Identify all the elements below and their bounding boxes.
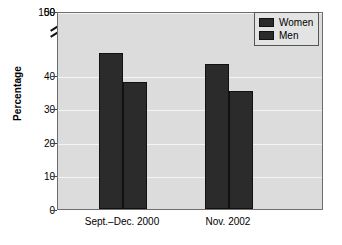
gridline	[58, 110, 322, 111]
legend-label-men: Men	[279, 31, 298, 41]
bar-men-2	[229, 91, 253, 209]
legend-label-women: Women	[279, 18, 313, 28]
legend-swatch-men-icon	[259, 31, 274, 40]
bar-women-1	[99, 53, 123, 209]
gridline	[58, 144, 322, 145]
bar-women-2	[205, 64, 229, 209]
x-tick-label: Sept.–Dec. 2000	[85, 216, 160, 227]
y-tick-label: 0	[15, 205, 55, 216]
y-tick-label: 30	[15, 104, 55, 115]
y-tick-label: 10	[15, 171, 55, 182]
legend-item: Women	[259, 16, 313, 29]
bar-men-1	[123, 82, 147, 209]
legend: Women Men	[254, 12, 319, 46]
y-tick-mark	[51, 210, 57, 211]
gridline	[58, 177, 322, 178]
y-axis-title: Percentage	[12, 39, 23, 149]
y-tick-label: 40	[15, 70, 55, 81]
x-tick-label: Nov. 2002	[206, 216, 251, 227]
gridline	[58, 77, 322, 78]
y-tick-label: 20	[15, 137, 55, 148]
legend-swatch-women-icon	[259, 18, 274, 27]
legend-item: Men	[259, 29, 313, 42]
bar-chart: Percentage 10050403020100 Sept.–Dec. 200…	[0, 0, 342, 245]
